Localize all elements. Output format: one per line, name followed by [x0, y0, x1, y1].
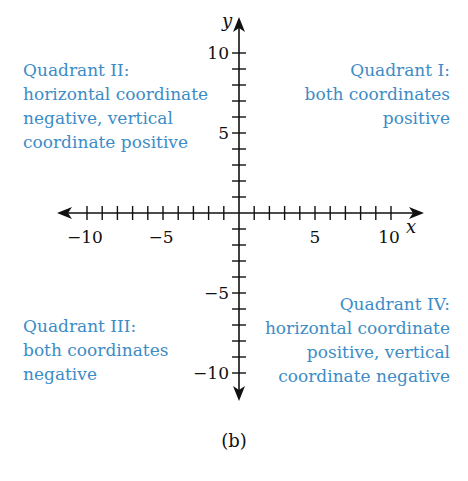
quadrant-ii-line-2: horizontal coordinate: [23, 82, 208, 106]
quadrant-iii-line-2: both coordinates: [23, 338, 168, 362]
x-tick-label-neg10: −10: [67, 227, 103, 247]
y-axis-label: y: [221, 10, 233, 31]
quadrant-i-line-1: Quadrant I:: [210, 58, 450, 82]
quadrant-iv-line-4: coordinate negative: [210, 364, 450, 388]
quadrant-iv-line-3: positive, vertical: [210, 340, 450, 364]
quadrant-iii-line-3: negative: [23, 362, 168, 386]
quadrant-iii-label: Quadrant III: both coordinates negative: [23, 314, 168, 386]
quadrant-ii-label: Quadrant II: horizontal coordinate negat…: [23, 58, 208, 154]
figure-caption: (b): [0, 430, 468, 451]
quadrant-ii-line-1: Quadrant II:: [23, 58, 208, 82]
quadrant-iii-line-1: Quadrant III:: [23, 314, 168, 338]
x-tick-label-10: 10: [378, 227, 400, 247]
x-tick-label-neg5: −5: [148, 227, 173, 247]
quadrant-i-line-3: positive: [210, 106, 450, 130]
x-axis-label: x: [406, 216, 416, 237]
x-tick-label-5: 5: [310, 227, 321, 247]
quadrant-ii-line-3: negative, vertical: [23, 106, 208, 130]
quadrant-i-label: Quadrant I: both coordinates positive: [210, 58, 450, 130]
quadrant-iv-line-2: horizontal coordinate: [210, 316, 450, 340]
quadrant-iv-label: Quadrant IV: horizontal coordinate posit…: [210, 292, 450, 388]
quadrant-i-line-2: both coordinates: [210, 82, 450, 106]
quadrant-iv-line-1: Quadrant IV:: [210, 292, 450, 316]
quadrant-ii-line-4: coordinate positive: [23, 130, 208, 154]
